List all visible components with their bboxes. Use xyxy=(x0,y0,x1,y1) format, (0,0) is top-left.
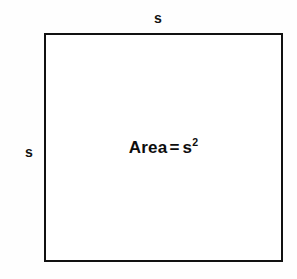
square-area-diagram: s s Area=s2 xyxy=(0,0,297,279)
area-formula-lhs: Area xyxy=(129,138,168,157)
left-side-label: s xyxy=(19,145,39,159)
area-formula: Area=s2 xyxy=(44,139,283,156)
top-side-label: s xyxy=(0,11,297,25)
area-formula-operator: = xyxy=(169,138,179,157)
area-formula-exponent: 2 xyxy=(192,136,198,148)
area-formula-variable: s xyxy=(183,138,193,157)
